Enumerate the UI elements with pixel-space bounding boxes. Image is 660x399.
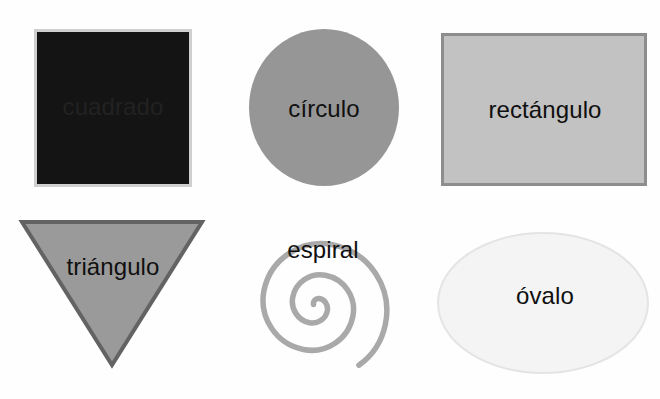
- spiral-label: espiral: [287, 238, 358, 262]
- circle-label: círculo: [288, 97, 359, 121]
- triangle-down-icon: [14, 214, 210, 374]
- triangle-label: triángulo: [67, 255, 160, 279]
- rectangle-label: rectángulo: [488, 98, 601, 122]
- square-label: cuadrado: [63, 95, 164, 119]
- oval-label: óvalo: [516, 284, 574, 308]
- shapes-canvas: cuadrado círculo rectángulo triángulo es…: [0, 0, 660, 399]
